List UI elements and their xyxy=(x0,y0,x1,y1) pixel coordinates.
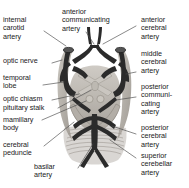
label-posterior-communicating-artery: posterior communi- cating artery xyxy=(141,83,172,116)
label-temporal-lobe: temporal lobe xyxy=(3,74,31,91)
label-optic-nerve: optic nerve xyxy=(3,57,38,65)
label-superior-cerebellar-artery: superior cerebellar artery xyxy=(141,152,172,177)
label-anterior-communicating-artery: anterior communicating artery xyxy=(62,8,110,33)
anterior-communicating-vessel xyxy=(90,45,99,48)
label-middle-cerebral-artery: middle cerebral artery xyxy=(141,50,167,75)
label-posterior-cerebral-artery: posterior cerebral artery xyxy=(141,124,169,149)
label-pituitary-stalk: pituitary stalk xyxy=(3,104,44,112)
anatomical-figure-circle-of-willis: internal carotid artery optic nerve temp… xyxy=(0,0,189,188)
label-anterior-cerebral-artery: anterior cerebral artery xyxy=(141,16,167,41)
label-internal-carotid-artery: internal carotid artery xyxy=(3,16,26,41)
label-mamillary-body: mamillary body xyxy=(3,116,33,133)
label-basilar-artery: basilar artery xyxy=(34,163,55,180)
label-cerebral-peduncle: cerebral peduncle xyxy=(3,141,32,158)
